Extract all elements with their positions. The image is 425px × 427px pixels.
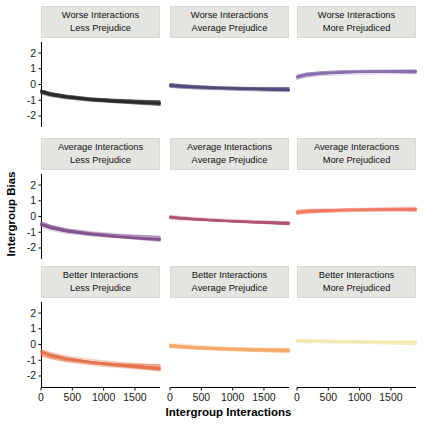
x-tick-label: 0 (167, 391, 173, 403)
x-tick-label: 500 (320, 391, 338, 403)
facet-col-label: Average Prejudice (192, 22, 268, 35)
facet-row-label: Average Interactions (314, 141, 399, 154)
x-tick-label: 500 (64, 391, 82, 403)
y-tick-label: 0 (30, 78, 36, 90)
y-tick-label: -1 (27, 226, 36, 238)
y-tick-label: 2 (30, 307, 36, 319)
facet-strip: Worse Interactions Less Prejudice (41, 6, 160, 38)
facet-strip: Better Interactions Average Prejudice (170, 266, 289, 298)
x-axis-title: Intergroup Interactions (41, 406, 416, 418)
x-tick-label: 500 (193, 391, 211, 403)
facet-row-label: Average Interactions (187, 141, 272, 154)
facet-row-label: Better Interactions (192, 269, 267, 282)
x-tick-label: 1000 (348, 391, 372, 403)
facet-row-label: Worse Interactions (318, 9, 395, 22)
y-tick-label: 1 (30, 322, 36, 334)
y-axis-title: Intergroup Bias (5, 172, 17, 257)
facet-row-label: Better Interactions (319, 269, 394, 282)
x-tick-label: 0 (294, 391, 300, 403)
y-tick-label: -1 (27, 354, 36, 366)
y-tick-label: 0 (30, 210, 36, 222)
facet-col-label: Less Prejudice (70, 22, 131, 35)
y-tick-label: 2 (30, 47, 36, 59)
facet-row-label: Worse Interactions (62, 9, 139, 22)
x-tick-label: 1500 (379, 391, 403, 403)
facet-row-label: Better Interactions (63, 269, 138, 282)
y-tick-label: -1 (27, 94, 36, 106)
x-tick-label: 1500 (252, 391, 276, 403)
y-tick-label: 2 (30, 179, 36, 191)
faceted-line-chart: Intergroup Bias Worse Interactions Less … (0, 0, 425, 427)
y-tick-label: -2 (27, 241, 36, 253)
y-tick-label: -2 (27, 369, 36, 381)
x-tick-label: 1000 (92, 391, 116, 403)
x-tick-label: 0 (38, 391, 44, 403)
plot-canvas: 210-1-2210-1-2210-1-20500100015000500100… (0, 0, 425, 427)
y-tick-label: 1 (30, 194, 36, 206)
facet-strip: Worse Interactions Average Prejudice (170, 6, 289, 38)
facet-col-label: Less Prejudice (70, 154, 131, 167)
x-tick-label: 1000 (221, 391, 245, 403)
facet-col-label: More Prejudiced (323, 22, 391, 35)
facet-row-label: Average Interactions (58, 141, 143, 154)
facet-col-label: More Prejudiced (323, 282, 391, 295)
facet-row-label: Worse Interactions (191, 9, 268, 22)
facet-col-label: Average Prejudice (192, 282, 268, 295)
facet-strip: Average Interactions Average Prejudice (170, 138, 289, 170)
y-tick-label: -2 (27, 109, 36, 121)
facet-col-label: Less Prejudice (70, 282, 131, 295)
x-tick-label: 1500 (123, 391, 147, 403)
facet-col-label: More Prejudiced (323, 154, 391, 167)
y-tick-label: 1 (30, 62, 36, 74)
facet-col-label: Average Prejudice (192, 154, 268, 167)
facet-strip: Average Interactions More Prejudiced (297, 138, 416, 170)
y-tick-label: 0 (30, 338, 36, 350)
facet-strip: Worse Interactions More Prejudiced (297, 6, 416, 38)
facet-strip: Better Interactions Less Prejudice (41, 266, 160, 298)
facet-strip: Average Interactions Less Prejudice (41, 138, 160, 170)
facet-strip: Better Interactions More Prejudiced (297, 266, 416, 298)
